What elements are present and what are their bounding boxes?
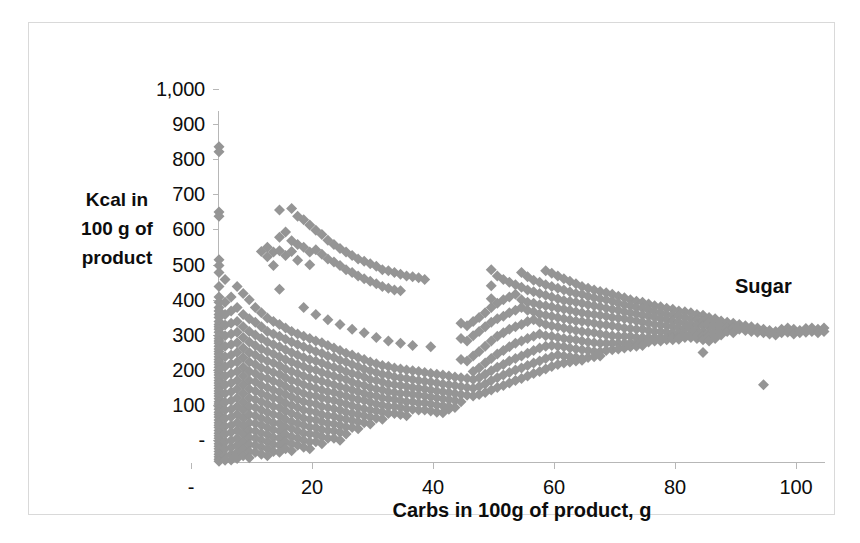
x-axis-tick-label: 100 [756, 475, 836, 499]
scatter-point [310, 309, 321, 320]
x-axis-tick [554, 463, 555, 469]
scatter-point [407, 340, 418, 351]
scatter-point [292, 255, 303, 266]
scatter-point [383, 335, 394, 346]
y-axis-tick-label: 1,000 [121, 79, 205, 99]
y-axis-tick-label-holder: 700 [121, 184, 205, 204]
x-axis-tick [675, 463, 676, 469]
y-axis-tick-label: 100 [121, 395, 205, 415]
y-axis-tick-label: 900 [121, 114, 205, 134]
x-axis-tick-label-holder: 40 [393, 475, 473, 499]
y-axis-tick-label-holder: 900 [121, 114, 205, 134]
x-axis-tick-label: 60 [514, 475, 594, 499]
x-axis-tick-label-holder: 60 [514, 475, 594, 499]
x-axis-title: Carbs in 100g of product, g [219, 497, 825, 523]
scatter-series [214, 141, 830, 466]
scatter-point [274, 284, 285, 295]
y-axis-tick [213, 89, 219, 90]
chart-frame: Kcal in 100 g of product -10020030040050… [28, 22, 835, 515]
x-axis-tick [312, 463, 313, 469]
scatter-chart-figure: Kcal in 100 g of product -10020030040050… [0, 0, 860, 543]
x-axis-tick-label-holder: 20 [272, 475, 352, 499]
x-axis-tick [433, 463, 434, 469]
y-axis-tick-label: - [121, 430, 205, 450]
scatter-point [298, 302, 309, 313]
x-axis-tick-label-holder: 100 [756, 475, 836, 499]
x-axis-tick [191, 463, 192, 469]
x-axis-tick-label: 40 [393, 475, 473, 499]
scatter-point [347, 324, 358, 335]
x-axis-tick-label: 80 [635, 475, 715, 499]
sugar-annotation: Sugar [735, 275, 792, 297]
x-axis-tick [796, 463, 797, 469]
y-axis-tick-label: 800 [121, 149, 205, 169]
y-axis-tick-label-holder: 400 [121, 290, 205, 310]
plot-area [219, 111, 824, 462]
y-axis-tick-label-holder: 500 [121, 255, 205, 275]
y-axis-tick-label-holder: 200 [121, 360, 205, 380]
scatter-point [335, 319, 346, 330]
x-axis-tick-label-holder: 80 [635, 475, 715, 499]
x-axis-line [219, 462, 825, 463]
y-axis-tick-label-holder: 300 [121, 325, 205, 345]
scatter-point [274, 204, 285, 215]
y-axis-tick-label-holder: - [121, 430, 205, 450]
y-axis-tick-label: 600 [121, 219, 205, 239]
scatter-point [698, 347, 709, 358]
y-axis-tick-label: 500 [121, 255, 205, 275]
scatter-point [395, 338, 406, 349]
x-axis-tick-label: 20 [272, 475, 352, 499]
scatter-point [322, 314, 333, 325]
y-axis-tick-label-holder: 800 [121, 149, 205, 169]
x-axis-tick-label-holder: - [151, 475, 231, 499]
y-axis-tick-label-holder: 1,000 [121, 79, 205, 99]
y-axis-tick-label: 700 [121, 184, 205, 204]
scatter-point [268, 260, 279, 271]
scatter-point [425, 341, 436, 352]
scatter-point [359, 327, 370, 338]
scatter-point [371, 332, 382, 343]
scatter-markers [219, 111, 824, 462]
y-axis-tick-label-holder: 600 [121, 219, 205, 239]
y-axis-tick-label: 200 [121, 360, 205, 380]
x-axis-tick-label: - [151, 475, 231, 499]
y-axis-tick-label-holder: 100 [121, 395, 205, 415]
y-axis-tick-label: 300 [121, 325, 205, 345]
scatter-point [486, 280, 497, 291]
scatter-point [304, 259, 315, 270]
scatter-point [286, 203, 297, 214]
scatter-point [758, 379, 769, 390]
y-axis-tick-label: 400 [121, 290, 205, 310]
